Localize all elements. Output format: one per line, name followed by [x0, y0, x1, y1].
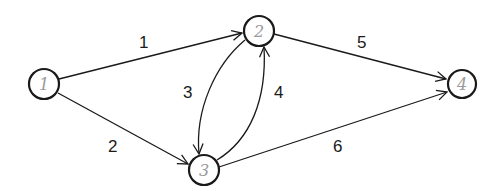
node-label-1: 1 — [39, 75, 49, 94]
node-label-4: 4 — [456, 75, 467, 94]
edge-6: 6 — [219, 92, 447, 167]
edge-4: 4 — [217, 47, 283, 160]
edge-label-6: 6 — [333, 137, 342, 156]
edge-label-1: 1 — [139, 33, 148, 52]
node-label-2: 2 — [253, 22, 264, 41]
edge-label-3: 3 — [183, 83, 192, 102]
node-4: 4 — [448, 70, 476, 98]
edge-3: 3 — [183, 40, 245, 154]
edge-label-5: 5 — [357, 33, 366, 52]
node-2: 2 — [244, 16, 274, 46]
edge-5: 5 — [274, 33, 446, 79]
node-3: 3 — [189, 155, 219, 185]
edge-1: 1 — [59, 33, 242, 79]
edge-label-4: 4 — [274, 83, 283, 102]
edge-2: 2 — [58, 93, 188, 164]
edge-label-2: 2 — [108, 137, 117, 156]
node-1: 1 — [29, 69, 59, 99]
graph-diagram: 1 2 3 4 5 6 1 2 3 4 — [0, 0, 504, 194]
node-label-3: 3 — [199, 161, 209, 180]
